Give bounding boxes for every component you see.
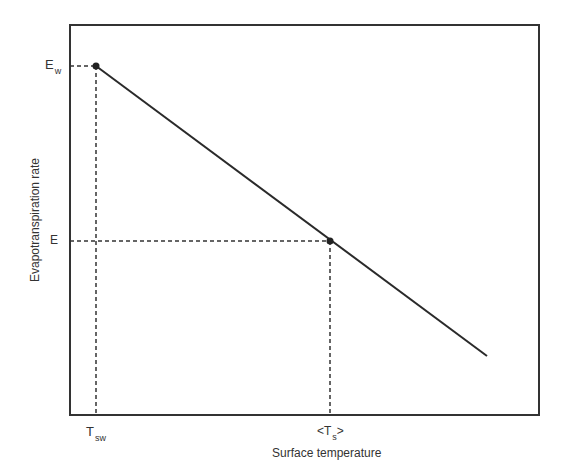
x-axis-label: Surface temperature: [272, 446, 381, 460]
point-e: [327, 238, 334, 245]
y-axis-label: Evapotranspiration rate: [28, 158, 42, 282]
xtick-ts: <Ts>: [317, 424, 344, 438]
ytick-ew: Ew: [45, 57, 61, 72]
trend-line: [96, 66, 487, 356]
chart-canvas: [0, 0, 567, 475]
ytick-e: E: [50, 233, 58, 247]
point-ew: [93, 63, 100, 70]
xtick-tsw: Tsw: [86, 424, 106, 439]
